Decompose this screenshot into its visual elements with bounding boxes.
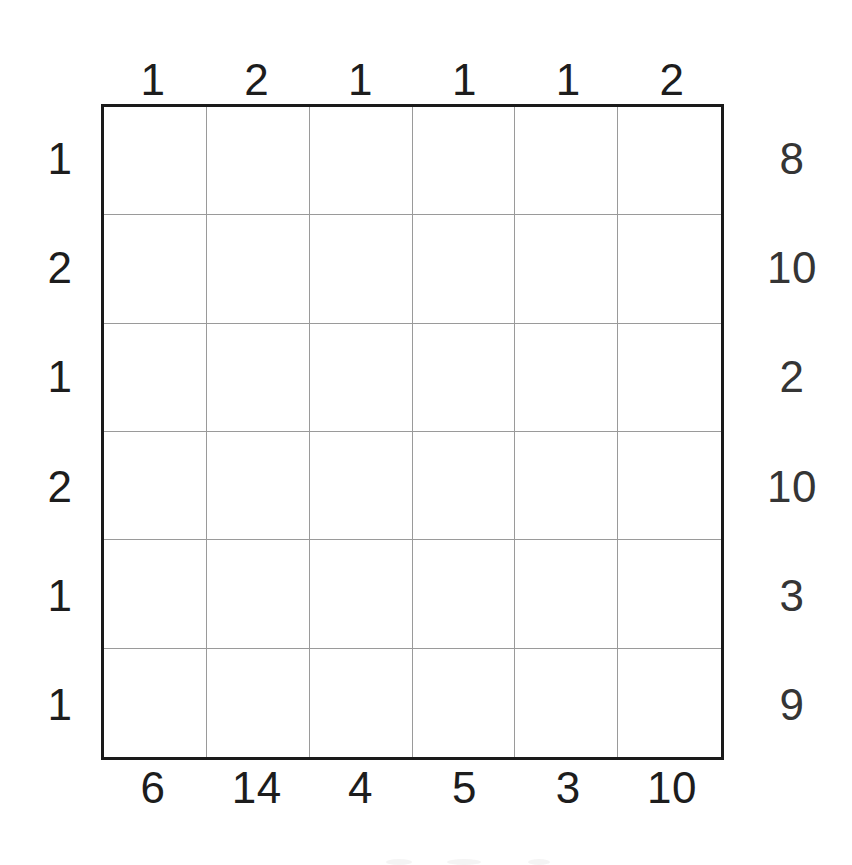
scan-artifact (386, 859, 412, 865)
bottom-clue-6: 10 (620, 766, 724, 810)
left-clue-3: 1 (48, 323, 73, 432)
grid-cell-r1c4[interactable] (413, 107, 516, 215)
grid-cell-r3c4[interactable] (413, 324, 516, 432)
grid-cell-r2c2[interactable] (207, 215, 310, 323)
grid-cell-r3c5[interactable] (515, 324, 618, 432)
right-clue-1: 8 (780, 104, 805, 213)
top-clue-6: 2 (620, 58, 724, 102)
grid-cell-r4c4[interactable] (413, 432, 516, 540)
left-clue-6: 1 (48, 651, 73, 760)
top-clue-strip: 1 2 1 1 1 2 (101, 30, 724, 102)
bottom-clue-4: 5 (413, 766, 517, 810)
top-clue-5: 1 (516, 58, 620, 102)
right-clue-4: 10 (767, 432, 817, 541)
grid-cell-r2c3[interactable] (310, 215, 413, 323)
grid-cell-r2c6[interactable] (618, 215, 721, 323)
bottom-clue-strip: 6 14 4 5 3 10 (101, 766, 724, 838)
grid-cell-r1c1[interactable] (104, 107, 207, 215)
grid-cell-r6c1[interactable] (104, 649, 207, 757)
grid-cell-r3c6[interactable] (618, 324, 721, 432)
grid-cell-r2c4[interactable] (413, 215, 516, 323)
grid-cell-r5c1[interactable] (104, 540, 207, 648)
bottom-clue-5: 3 (516, 766, 620, 810)
grid-cell-r6c6[interactable] (618, 649, 721, 757)
bottom-clue-3: 4 (309, 766, 413, 810)
grid-cell-r3c1[interactable] (104, 324, 207, 432)
top-clue-2: 2 (205, 58, 309, 102)
grid-cell-r4c1[interactable] (104, 432, 207, 540)
grid-cell-r2c5[interactable] (515, 215, 618, 323)
left-clue-1: 1 (48, 104, 73, 213)
right-clue-5: 3 (780, 541, 805, 650)
right-clue-3: 2 (780, 323, 805, 432)
puzzle-grid (101, 104, 724, 760)
right-clue-2: 10 (767, 213, 817, 322)
top-clue-4: 1 (413, 58, 517, 102)
grid-cell-r1c3[interactable] (310, 107, 413, 215)
grid-cell-r4c6[interactable] (618, 432, 721, 540)
grid-cell-r5c6[interactable] (618, 540, 721, 648)
grid-cell-r4c3[interactable] (310, 432, 413, 540)
scan-artifact (528, 859, 550, 865)
grid-cell-r6c3[interactable] (310, 649, 413, 757)
top-clue-3: 1 (309, 58, 413, 102)
top-clue-1: 1 (101, 58, 205, 102)
grid-cell-r4c5[interactable] (515, 432, 618, 540)
grid-cell-r2c1[interactable] (104, 215, 207, 323)
scan-artifact (447, 859, 481, 865)
left-clue-2: 2 (48, 213, 73, 322)
grid-cell-r1c6[interactable] (618, 107, 721, 215)
grid-cell-r5c5[interactable] (515, 540, 618, 648)
puzzle-sheet: 1 2 1 1 1 2 1 2 1 2 1 1 (0, 0, 852, 865)
bottom-clue-2: 14 (205, 766, 309, 810)
grid-cell-r6c2[interactable] (207, 649, 310, 757)
right-clue-strip: 8 10 2 10 3 9 (752, 104, 832, 760)
right-clue-6: 9 (780, 651, 805, 760)
left-clue-4: 2 (48, 432, 73, 541)
grid-cell-r1c5[interactable] (515, 107, 618, 215)
bottom-clue-1: 6 (101, 766, 205, 810)
left-clue-5: 1 (48, 541, 73, 650)
left-clue-strip: 1 2 1 2 1 1 (20, 104, 100, 760)
grid-cell-r1c2[interactable] (207, 107, 310, 215)
grid-cell-r6c4[interactable] (413, 649, 516, 757)
grid-cell-r3c3[interactable] (310, 324, 413, 432)
grid-cell-r5c2[interactable] (207, 540, 310, 648)
grid-cell-r3c2[interactable] (207, 324, 310, 432)
grid-cell-r5c4[interactable] (413, 540, 516, 648)
grid-cell-r5c3[interactable] (310, 540, 413, 648)
grid-cell-r6c5[interactable] (515, 649, 618, 757)
grid-cell-r4c2[interactable] (207, 432, 310, 540)
